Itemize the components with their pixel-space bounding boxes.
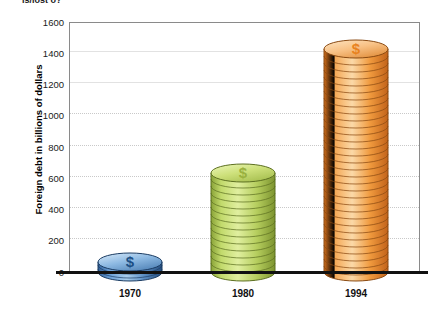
coin-stack-bar-chart: is/lost o? Foreign debt in billions of d…: [0, 0, 440, 314]
y-tick-1200: 1200: [20, 79, 64, 90]
x-axis-baseline: [56, 271, 428, 274]
y-tick-1400: 1400: [20, 48, 64, 59]
dollar-sign-icon: $: [352, 40, 361, 57]
x-tick-1994: 1994: [321, 288, 391, 299]
coin-stack-1994-graphic: $: [322, 38, 390, 284]
coin-stack-1980-graphic: $: [209, 162, 277, 284]
bar-1980: $: [209, 162, 277, 284]
coin-stack-1970-graphic: $: [96, 250, 164, 286]
y-axis-tick-labels: 1600 1400 1200 1000 800 600 400 200 0: [18, 0, 64, 314]
y-tick-400: 400: [20, 204, 64, 215]
bar-1970: $: [96, 250, 164, 286]
y-tick-800: 800: [20, 142, 64, 153]
y-tick-1000: 1000: [20, 110, 64, 121]
bar-1994: $: [322, 38, 390, 284]
y-tick-1600: 1600: [20, 17, 64, 28]
y-tick-200: 200: [20, 235, 64, 246]
dollar-sign-icon: $: [126, 253, 135, 270]
x-tick-1980: 1980: [208, 288, 278, 299]
x-tick-1970: 1970: [95, 288, 165, 299]
y-tick-600: 600: [20, 173, 64, 184]
dollar-sign-icon: $: [239, 164, 248, 181]
